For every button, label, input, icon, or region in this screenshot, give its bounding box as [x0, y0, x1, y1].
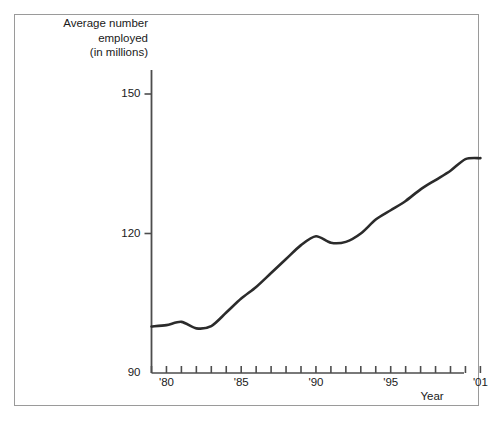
tick-marks-group: [145, 94, 481, 373]
y-axis-title: Average number employed (in millions): [26, 16, 148, 60]
x-axis-title: Year: [404, 389, 460, 404]
x-tick-label: '85: [224, 376, 258, 388]
line-chart-plot: [0, 0, 495, 422]
y-tick-label: 90: [109, 366, 141, 378]
x-tick-label: '95: [374, 376, 408, 388]
y-tick-label: 150: [109, 87, 141, 99]
y-tick-label: 120: [109, 227, 141, 239]
x-tick-label: '90: [299, 376, 333, 388]
chart-figure: Average number employed (in millions) Ye…: [0, 0, 495, 422]
data-series-line: [152, 158, 481, 329]
x-tick-label: '01: [463, 376, 495, 388]
x-tick-label: '80: [149, 376, 183, 388]
